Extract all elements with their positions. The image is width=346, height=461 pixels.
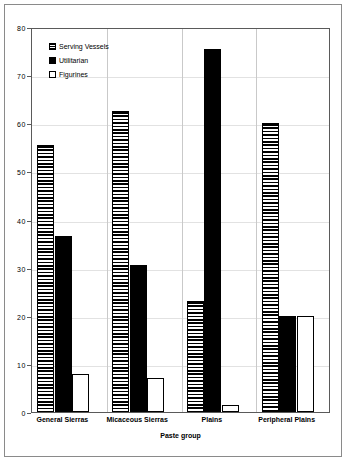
bar-group — [182, 29, 257, 412]
y-axis-tick-mark — [27, 269, 31, 270]
x-axis-tick-label: Plains — [202, 416, 223, 423]
x-axis-title: Paste group — [31, 432, 330, 439]
legend-swatch-utilitarian — [49, 57, 56, 64]
legend-label-serving-vessels: Serving Vessels — [59, 43, 109, 50]
y-axis-tick-mark — [27, 413, 31, 414]
legend-item-utilitarian: Utilitarian — [49, 54, 109, 66]
y-axis-tick-mark — [27, 221, 31, 222]
bar-group — [256, 29, 330, 412]
plot-wrapper: 01020304050607080 Serving Vessels Utilit… — [31, 28, 330, 413]
x-axis-tick-label: Micaceous Sierras — [106, 416, 167, 423]
bar-group — [107, 29, 182, 412]
legend: Serving Vessels Utilitarian Figurines — [49, 40, 109, 82]
bar — [112, 111, 129, 412]
group-separator — [107, 29, 108, 412]
x-axis-tick-label: General Sierras — [36, 416, 88, 423]
bars-layer — [32, 29, 329, 412]
y-axis-tick-mark — [27, 28, 31, 29]
x-axis-tick-label: Peripheral Plains — [258, 416, 315, 423]
legend-label-figurines: Figurines — [59, 71, 88, 78]
bar — [130, 265, 147, 412]
bar — [262, 123, 279, 412]
legend-swatch-serving-vessels — [49, 43, 56, 50]
y-axis-tick-mark — [27, 172, 31, 173]
bar — [204, 49, 221, 412]
bar — [222, 405, 239, 412]
x-axis-labels: General SierrasMicaceous SierrasPlainsPe… — [31, 416, 330, 430]
bar — [55, 236, 72, 412]
bar-group — [32, 29, 107, 412]
legend-label-utilitarian: Utilitarian — [59, 57, 88, 64]
legend-item-figurines: Figurines — [49, 68, 109, 80]
bar — [37, 145, 54, 412]
legend-swatch-figurines — [49, 71, 56, 78]
y-axis-tick-mark — [27, 76, 31, 77]
bar — [297, 316, 314, 412]
bar — [147, 378, 164, 412]
chart-figure: 01020304050607080 Serving Vessels Utilit… — [0, 0, 346, 461]
y-axis-tick-mark — [27, 317, 31, 318]
bar — [187, 301, 204, 412]
y-axis-tick-mark — [27, 365, 31, 366]
bar — [72, 374, 89, 413]
bar — [279, 316, 296, 412]
plot-area — [31, 28, 330, 413]
group-separator — [256, 29, 257, 412]
y-axis-tick-mark — [27, 124, 31, 125]
group-separator — [182, 29, 183, 412]
legend-item-serving-vessels: Serving Vessels — [49, 40, 109, 52]
